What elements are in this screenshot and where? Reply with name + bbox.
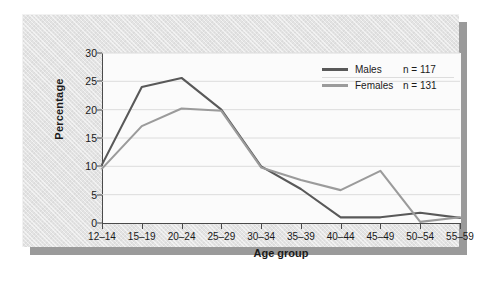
x-axis-tick-mark bbox=[261, 224, 262, 229]
y-axis-tick-label: 10 bbox=[75, 161, 97, 171]
y-axis-tick-mark bbox=[97, 109, 102, 110]
legend-item-males: Malesn = 117 bbox=[322, 62, 454, 77]
y-axis-tick-mark bbox=[97, 81, 102, 82]
legend-item-females: Femalesn = 131 bbox=[322, 77, 454, 93]
y-axis-tick-mark bbox=[97, 53, 102, 54]
y-axis-tick-label: 30 bbox=[75, 48, 97, 58]
y-axis-tick-mark bbox=[97, 194, 102, 195]
y-axis-tick-mark bbox=[97, 138, 102, 139]
legend-color-swatch bbox=[322, 68, 348, 71]
legend-series-name: Females bbox=[355, 80, 403, 91]
figure-root: 051015202530 Percentage Age group Malesn… bbox=[0, 0, 495, 284]
x-axis-tick-mark bbox=[460, 224, 461, 229]
y-axis-tick-label: 0 bbox=[75, 218, 97, 228]
series-line-females bbox=[102, 109, 460, 222]
x-axis-tick-mark bbox=[420, 224, 421, 229]
legend-sample-size: n = 131 bbox=[403, 80, 437, 91]
x-axis-tick-mark bbox=[380, 224, 381, 229]
x-axis-tick-mark bbox=[301, 224, 302, 229]
x-axis-tick-label: 55–59 bbox=[437, 231, 483, 242]
legend-color-swatch bbox=[322, 84, 348, 87]
x-axis-tick-mark bbox=[221, 224, 222, 229]
legend-sample-size: n = 117 bbox=[403, 64, 436, 75]
legend-series-name: Males bbox=[355, 64, 403, 75]
x-axis-tick-mark bbox=[182, 224, 183, 229]
y-axis-title: Percentage bbox=[53, 64, 65, 154]
series-line-males bbox=[102, 78, 460, 218]
y-axis-tick-label: 5 bbox=[75, 190, 97, 200]
y-axis-tick-labels: 051015202530 bbox=[73, 53, 97, 223]
x-axis-tick-mark bbox=[341, 224, 342, 229]
y-axis-tick-mark bbox=[97, 166, 102, 167]
y-axis-tick-label: 15 bbox=[75, 133, 97, 143]
x-axis-tick-mark bbox=[142, 224, 143, 229]
legend: Malesn = 117Femalesn = 131 bbox=[322, 62, 454, 93]
chart-card: 051015202530 Percentage Age group Malesn… bbox=[22, 14, 459, 247]
y-axis-tick-label: 25 bbox=[75, 76, 97, 86]
x-axis-title: Age group bbox=[102, 247, 460, 259]
x-axis-tick-mark bbox=[102, 224, 103, 229]
y-axis-tick-label: 20 bbox=[75, 105, 97, 115]
